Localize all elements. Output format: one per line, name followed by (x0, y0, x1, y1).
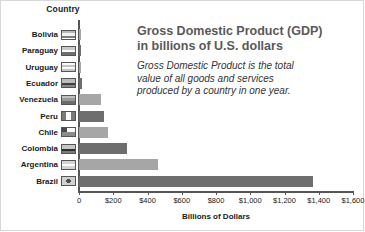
x-tick (319, 191, 320, 195)
chile-flag (61, 127, 76, 137)
bar-ecuador (79, 78, 82, 89)
chart-subtitle-line-2: value of all goods and services (137, 73, 274, 84)
paraguay-flag (61, 46, 76, 56)
x-tick-label: $1,600 (333, 196, 365, 205)
x-tick (216, 191, 217, 195)
country-label-brazil: Brazil (0, 174, 58, 190)
brazil-flag (61, 176, 76, 186)
country-label-argentina: Argentina (0, 157, 58, 173)
chart-subtitle-line-1: Gross Domestic Product is the total (137, 60, 294, 71)
peru-flag (61, 111, 76, 121)
bar-venezuela (79, 94, 101, 105)
country-label-uruguay: Uruguay (0, 60, 58, 76)
country-label-paraguay: Paraguay (0, 43, 58, 59)
bolivia-flag (61, 30, 76, 40)
gdp-bar-chart: Country BoliviaParaguayUruguayEcuadorVen… (0, 0, 365, 232)
x-tick (250, 191, 251, 195)
bar-row: Brazil (0, 174, 365, 190)
uruguay-flag (61, 62, 76, 72)
bar-argentina (79, 159, 158, 170)
country-column-header: Country (28, 4, 98, 14)
bar-row: Argentina (0, 157, 365, 173)
colombia-flag (61, 144, 76, 154)
x-tick (148, 191, 149, 195)
x-tick (285, 191, 286, 195)
bar-colombia (79, 143, 127, 154)
chart-title-line-2: in billions of U.S. dollars (137, 39, 283, 53)
x-axis-title: Billions of Dollars (78, 212, 354, 221)
x-tick (182, 191, 183, 195)
bar-row: Colombia (0, 141, 365, 157)
title-block: Gross Domestic Product (GDP) in billions… (137, 24, 359, 98)
bar-bolivia (79, 29, 81, 40)
bar-peru (79, 111, 104, 122)
ecuador-flag (61, 78, 76, 88)
chart-title: Gross Domestic Product (GDP) in billions… (137, 24, 359, 53)
bar-chile (79, 127, 108, 138)
bar-row: Chile (0, 125, 365, 141)
chart-subtitle-line-3: produced by a country in one year. (137, 85, 291, 96)
x-tick (113, 191, 114, 195)
venezuela-flag (61, 95, 76, 105)
bar-paraguay (79, 45, 81, 56)
chart-subtitle: Gross Domestic Product is the total valu… (137, 60, 359, 98)
x-tick (79, 191, 80, 195)
country-label-peru: Peru (0, 109, 58, 125)
x-tick (353, 191, 354, 195)
argentina-flag (61, 160, 76, 170)
country-label-colombia: Colombia (0, 141, 58, 157)
chart-title-line-1: Gross Domestic Product (GDP) (137, 24, 322, 38)
country-label-venezuela: Venezuela (0, 92, 58, 108)
bar-row: Peru (0, 109, 365, 125)
country-label-ecuador: Ecuador (0, 76, 58, 92)
country-label-bolivia: Bolivia (0, 27, 58, 43)
bar-brazil (79, 176, 313, 187)
country-label-chile: Chile (0, 125, 58, 141)
bar-uruguay (79, 62, 81, 73)
